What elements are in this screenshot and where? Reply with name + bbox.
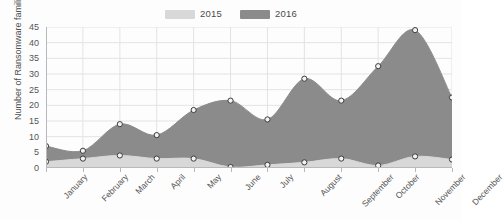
x-axis-tickmark — [83, 168, 84, 172]
y-axis-tick-label: 45 — [29, 23, 39, 32]
y-axis-tick-label: 10 — [29, 132, 39, 141]
x-axis-tick-label: April — [168, 172, 187, 191]
x-axis-tick-label: July — [278, 172, 296, 190]
x-axis-tick-label: January — [61, 172, 89, 201]
x-axis-tickmark — [267, 168, 268, 172]
x-axis-tickmark — [415, 168, 416, 172]
legend-item-2016[interactable]: 2016 — [240, 9, 297, 19]
legend-swatch-2016 — [240, 10, 270, 19]
x-axis-tickmark — [231, 168, 232, 172]
y-axis-ticks: 051015202530354045 — [0, 27, 44, 168]
x-axis-tickmark — [157, 168, 158, 172]
plot-area — [46, 27, 452, 168]
x-axis-tickmark — [120, 168, 121, 172]
x-axis-tick-label: February — [99, 172, 130, 203]
x-axis-tick-label: November — [433, 172, 467, 207]
x-axis-tickmark — [341, 168, 342, 172]
y-axis-tick-label: 25 — [29, 85, 39, 94]
x-axis-tick-label: October — [393, 172, 421, 201]
y-axis-tick-label: 30 — [29, 70, 39, 79]
x-axis-tickmark — [46, 168, 47, 172]
plot-frame — [46, 27, 452, 168]
x-axis-tickmark — [378, 168, 379, 172]
x-axis-tickmark — [452, 168, 453, 172]
y-axis-tick-label: 0 — [34, 164, 39, 173]
x-axis-ticks: JanuaryFebruaryMarchAprilMayJuneJulyAugu… — [46, 168, 452, 220]
x-axis-tickmark — [304, 168, 305, 172]
x-axis-tick-label: May — [205, 172, 223, 191]
legend-item-2015[interactable]: 2015 — [165, 9, 222, 19]
chart-legend: 2015 2016 — [0, 7, 462, 21]
y-axis-tick-label: 40 — [29, 38, 39, 47]
y-axis-tick-label: 20 — [29, 101, 39, 110]
legend-label-2016: 2016 — [275, 9, 297, 19]
x-axis-tick-label: September — [360, 172, 396, 209]
y-axis-tick-label: 35 — [29, 54, 39, 63]
y-axis-tick-label: 5 — [34, 148, 39, 157]
y-axis-tick-label: 15 — [29, 117, 39, 126]
x-axis-tick-label: August — [318, 172, 344, 198]
x-axis-tick-label: March — [133, 172, 157, 196]
legend-swatch-2015 — [165, 10, 195, 19]
x-axis-tick-label: December — [470, 172, 504, 207]
x-axis-tick-label: June — [242, 172, 262, 192]
x-axis-tickmark — [194, 168, 195, 172]
legend-label-2015: 2015 — [200, 9, 222, 19]
